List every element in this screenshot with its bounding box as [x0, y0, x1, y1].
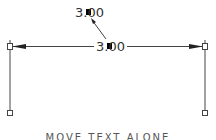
dimension-diagram	[0, 0, 216, 140]
left-top-grip-icon[interactable]	[8, 44, 13, 50]
moved-dimension-text[interactable]: 3.00	[75, 6, 104, 19]
diagram-caption: MOVE TEXT ALONE	[0, 133, 216, 140]
right-top-grip-icon[interactable]	[203, 44, 208, 50]
left-bottom-grip-icon[interactable]	[8, 111, 13, 116]
right-bottom-grip-icon[interactable]	[203, 111, 208, 116]
left-arrowhead-icon	[12, 44, 26, 49]
right-arrowhead-icon	[189, 44, 203, 49]
dimension-text[interactable]: 3.00	[96, 40, 125, 53]
